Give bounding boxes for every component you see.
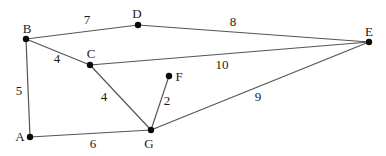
edge-C-G (90, 65, 151, 130)
node-C (87, 62, 93, 68)
edge-weight-A-B: 5 (16, 83, 23, 98)
edge-weight-B-D: 7 (84, 12, 91, 27)
node-label-G: G (144, 136, 153, 151)
node-A (27, 134, 33, 140)
node-D (135, 22, 141, 28)
edge-A-B (26, 39, 30, 137)
node-F (166, 73, 172, 79)
node-label-D: D (132, 6, 141, 21)
graph-diagram: 7841054296ABCDEFG (0, 0, 386, 156)
edge-weight-C-G: 4 (101, 89, 108, 104)
node-G (148, 127, 154, 133)
node-B (23, 36, 29, 42)
edge-weight-D-E: 8 (230, 14, 237, 29)
edge-D-E (138, 25, 369, 42)
edge-G-E (151, 42, 369, 130)
edge-B-D (26, 25, 138, 39)
edge-weight-B-C: 4 (54, 51, 61, 66)
graph-canvas: 7841054296ABCDEFG (0, 0, 386, 156)
node-label-C: C (87, 46, 96, 61)
edge-weight-C-E: 10 (216, 57, 229, 72)
node-E (366, 39, 372, 45)
node-label-E: E (365, 24, 373, 39)
edge-weight-A-G: 6 (90, 136, 97, 151)
edge-weight-F-G: 2 (164, 93, 171, 108)
node-label-A: A (15, 129, 25, 144)
edge-weight-G-E: 9 (255, 89, 262, 104)
edge-C-E (90, 42, 369, 65)
node-label-F: F (175, 69, 182, 84)
node-label-B: B (23, 21, 32, 36)
